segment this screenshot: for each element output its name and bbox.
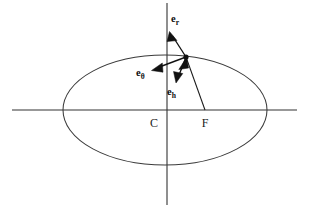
label-e-h: eh bbox=[167, 86, 177, 100]
orbit-diagram-canvas: er eθ eh C F bbox=[0, 0, 309, 213]
label-e-r-subscript: r bbox=[176, 18, 180, 27]
e-theta-arrowhead bbox=[152, 63, 164, 72]
label-e-r: er bbox=[171, 13, 180, 27]
orbital-frame-figure: er eθ eh C F bbox=[0, 0, 309, 213]
e-r-arrowhead bbox=[167, 32, 177, 42]
label-focus-f: F bbox=[202, 116, 209, 130]
focus-to-point-radius-line bbox=[186, 57, 205, 110]
label-center-c: C bbox=[150, 116, 158, 130]
orbit-point-marker bbox=[183, 54, 188, 59]
label-e-theta-subscript: θ bbox=[141, 72, 145, 81]
label-e-theta: eθ bbox=[136, 67, 145, 81]
label-e-h-subscript: h bbox=[172, 91, 177, 100]
e-h-arrowhead bbox=[174, 72, 183, 84]
vector-e-r bbox=[167, 32, 186, 58]
